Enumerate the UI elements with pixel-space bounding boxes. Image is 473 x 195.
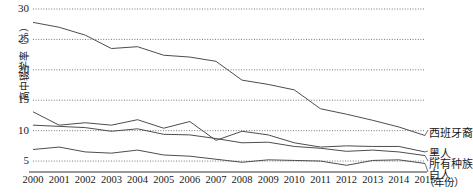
series-label-leader-3: [425, 163, 428, 172]
series-label-leader-2: [425, 156, 428, 161]
series-label-leader-0: [425, 130, 428, 136]
series-label-leader-1: [425, 151, 428, 152]
gridline-group: [33, 9, 425, 161]
chart-figure: 高中辍学率（%） 51015202530 2000200120022003200…: [0, 0, 473, 195]
series-label-西班牙裔: 西班牙裔: [429, 124, 473, 140]
line-chart-plot: [0, 0, 473, 195]
series-line-2: [33, 125, 425, 155]
series-label-白人: 白人: [429, 166, 451, 182]
series-line-group: [33, 22, 425, 165]
series-line-1: [33, 112, 425, 152]
series-line-3: [33, 147, 425, 165]
label-leader-line-group: [425, 130, 428, 172]
